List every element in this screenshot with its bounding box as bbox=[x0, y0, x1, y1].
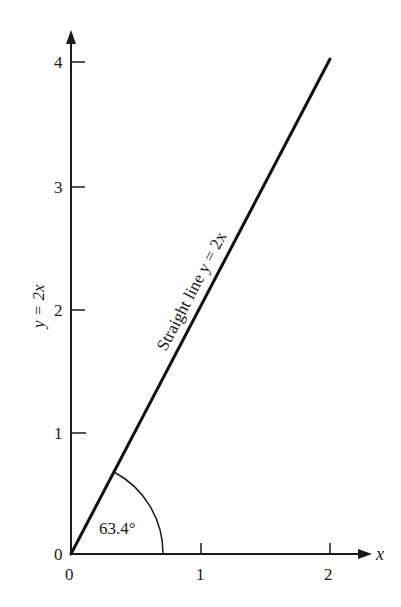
series-line-y-equals-2x bbox=[71, 59, 330, 554]
x-axis-label: x bbox=[375, 544, 384, 564]
y-tick-label-1: 1 bbox=[54, 424, 63, 443]
chart-canvas: 4 3 2 1 0 0 1 2 x y = 2x Straight line y… bbox=[0, 0, 401, 607]
angle-label: 63.4° bbox=[99, 519, 136, 538]
x-ticks bbox=[201, 543, 330, 554]
x-tick-label-1: 1 bbox=[196, 565, 205, 584]
y-axis-label: y = 2x bbox=[29, 284, 48, 330]
x-tick-label-2: 2 bbox=[324, 565, 333, 584]
y-tick-label-0: 0 bbox=[54, 545, 63, 564]
y-tick-label-3: 3 bbox=[54, 178, 63, 197]
y-ticks bbox=[71, 62, 86, 433]
line-label: Straight line y = 2x bbox=[153, 228, 231, 354]
angle-arc bbox=[114, 472, 163, 554]
y-tick-label-2: 2 bbox=[54, 301, 63, 320]
x-tick-label-0: 0 bbox=[65, 565, 74, 584]
x-axis-arrow-icon bbox=[358, 549, 372, 559]
y-axis-arrow-icon bbox=[66, 30, 76, 44]
y-tick-label-4: 4 bbox=[54, 53, 63, 72]
